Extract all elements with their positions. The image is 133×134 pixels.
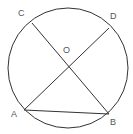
label-A: A — [11, 109, 17, 119]
segment-AB — [24, 110, 109, 114]
label-O: O — [63, 45, 70, 55]
label-D: D — [110, 11, 117, 21]
circle-diagram: C D O A B — [0, 0, 133, 134]
label-B: B — [110, 117, 116, 127]
segment-AD — [24, 28, 109, 110]
segment-CB — [32, 23, 109, 114]
label-C: C — [18, 8, 25, 18]
diagram-canvas: C D O A B — [0, 0, 133, 134]
